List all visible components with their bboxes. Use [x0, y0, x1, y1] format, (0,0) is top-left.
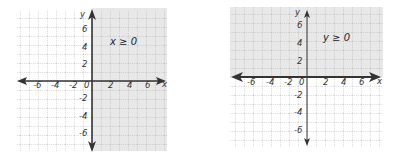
- y-tick-label: 4: [82, 42, 87, 52]
- x-tick-label: -6: [247, 77, 256, 87]
- origin-label: 0: [299, 77, 304, 87]
- origin-label: 0: [84, 80, 89, 90]
- y-tick-label: -6: [294, 125, 303, 135]
- y-tick-label: -4: [294, 107, 302, 117]
- y-tick-label: -2: [294, 90, 302, 100]
- inequality-label: y ≥ 0: [322, 32, 350, 43]
- x-tick-label: 4: [127, 80, 132, 90]
- y-tick-label: -6: [79, 128, 88, 138]
- y-tick-label: -4: [79, 111, 87, 121]
- x-axis-label: x: [376, 76, 383, 86]
- x-tick-label: -2: [69, 80, 77, 90]
- inequality-label: x ≥ 0: [109, 36, 137, 47]
- x-tick-label: 4: [341, 77, 346, 87]
- x-tick-label: -6: [33, 80, 42, 90]
- x-tick-label: -2: [284, 77, 292, 87]
- y-tick-label: 6: [297, 20, 303, 30]
- graph-y-ge-0: x y 0 -6 -4 -2 2 4 6 6 4 2 -2 -4 -6 y ≥ …: [230, 7, 383, 148]
- x-tick-label: 6: [359, 77, 365, 87]
- y-tick-label: 2: [82, 59, 87, 69]
- y-axis-label: y: [294, 7, 301, 17]
- y-tick-label: 2: [297, 56, 302, 66]
- y-tick-label: 6: [82, 24, 88, 34]
- x-tick-label: 2: [108, 80, 113, 90]
- graph-x-ge-0: x y 0 -6 -4 -2 2 4 6 6 4 2 -2 -4 -6 x ≥ …: [17, 8, 168, 152]
- x-tick-label: -4: [266, 77, 274, 87]
- y-tick-label: -2: [79, 93, 87, 103]
- x-tick-label: -4: [51, 80, 59, 90]
- y-tick-label: 4: [297, 38, 302, 48]
- x-axis-label: x: [161, 79, 168, 89]
- y-axis-label: y: [79, 9, 86, 19]
- x-tick-label: 6: [145, 80, 151, 90]
- x-tick-label: 2: [323, 77, 328, 87]
- inequality-graphs: x y 0 -6 -4 -2 2 4 6 6 4 2 -2 -4 -6 x ≥ …: [0, 0, 400, 157]
